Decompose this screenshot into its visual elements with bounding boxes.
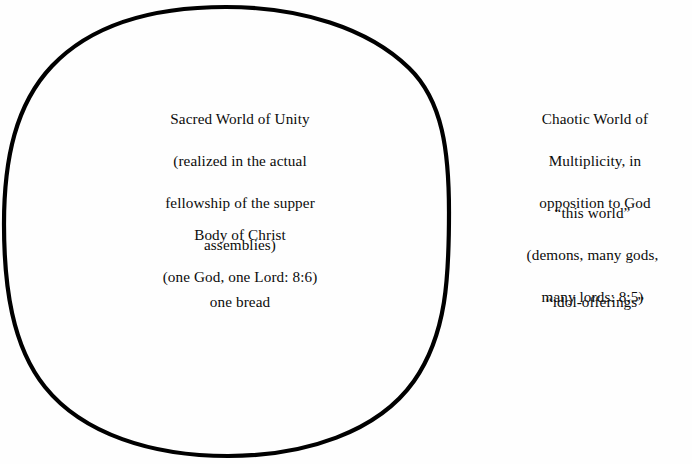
this-world-line-1: “this world” xyxy=(490,202,692,223)
body-of-christ-line-1: Body of Christ xyxy=(60,224,420,245)
sacred-unity-line-2: (realized in the actual xyxy=(60,150,420,171)
idol-offerings-text: “idol-offerings” xyxy=(495,270,692,333)
chaotic-multiplicity-line-1: Chaotic World of xyxy=(495,108,692,129)
one-bread-line-1: one bread xyxy=(60,291,420,312)
one-bread-text: one bread xyxy=(60,270,420,333)
idol-offerings-line-1: “idol-offerings” xyxy=(495,291,692,312)
this-world-line-2: (demons, many gods, xyxy=(490,244,692,265)
diagram-canvas: Sacred World of Unity (realized in the a… xyxy=(0,0,692,464)
sacred-unity-line-1: Sacred World of Unity xyxy=(60,108,420,129)
chaotic-multiplicity-line-2: Multiplicity, in xyxy=(495,150,692,171)
